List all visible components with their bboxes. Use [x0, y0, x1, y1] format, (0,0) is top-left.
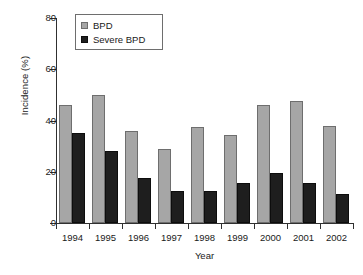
x-tick-mark: [320, 223, 321, 229]
x-tick-mark: [56, 223, 57, 229]
bar-severe-bpd-2000: [270, 173, 283, 223]
bar-bpd-1997: [158, 149, 171, 223]
y-tick-40: 40: [0, 121, 56, 122]
legend-item-bpd: BPD: [81, 18, 157, 32]
y-tick-0: 0: [0, 223, 56, 224]
bar-bpd-1994: [59, 105, 72, 223]
x-tick-mark: [89, 223, 90, 229]
gray-square-swatch: [81, 22, 88, 29]
y-tick-80: 80: [0, 18, 56, 19]
bar-severe-bpd-2001: [303, 183, 316, 223]
bar-bpd-2001: [290, 101, 303, 223]
y-tick-label: 20: [22, 166, 56, 177]
bar-bpd-1999: [224, 135, 237, 223]
x-tick-mark: [254, 223, 255, 229]
bar-severe-bpd-1997: [171, 191, 184, 223]
x-tick-mark: [287, 223, 288, 229]
bar-severe-bpd-1998: [204, 191, 217, 223]
y-tick-label: 80: [22, 12, 56, 23]
y-tick-label: 40: [22, 115, 56, 126]
legend-label-severe-bpd: Severe BPD: [93, 34, 145, 45]
bar-bpd-1998: [191, 127, 204, 223]
y-tick-20: 20: [0, 172, 56, 173]
y-tick-label: 0: [22, 217, 56, 228]
bar-bpd-2000: [257, 105, 270, 223]
legend-label-bpd: BPD: [93, 20, 113, 31]
x-tick-mark: [155, 223, 156, 229]
x-axis-title: Year: [56, 250, 353, 261]
bar-severe-bpd-1994: [72, 133, 85, 223]
y-tick-label: 60: [22, 63, 56, 74]
bar-bpd-1996: [125, 131, 138, 223]
x-axis-line: [56, 223, 353, 224]
x-tick-mark: [353, 223, 354, 229]
bar-severe-bpd-1996: [138, 178, 151, 223]
x-tick-mark: [122, 223, 123, 229]
x-tick-mark: [221, 223, 222, 229]
bar-severe-bpd-1995: [105, 151, 118, 223]
legend-item-severe-bpd: Severe BPD: [81, 32, 157, 46]
y-axis-title: Incidence (%): [19, 26, 30, 146]
bpd-incidence-bar-chart: Incidence (%) 020406080 1994199519961997…: [0, 0, 363, 275]
bar-severe-bpd-2002: [336, 194, 349, 223]
x-tick-label-2002: 2002: [317, 232, 357, 243]
bar-bpd-1995: [92, 95, 105, 223]
bar-bpd-2002: [323, 126, 336, 223]
y-tick-60: 60: [0, 69, 56, 70]
chart-legend: BPD Severe BPD: [75, 14, 163, 50]
x-tick-mark: [188, 223, 189, 229]
bar-severe-bpd-1999: [237, 183, 250, 223]
black-square-swatch: [81, 36, 88, 43]
